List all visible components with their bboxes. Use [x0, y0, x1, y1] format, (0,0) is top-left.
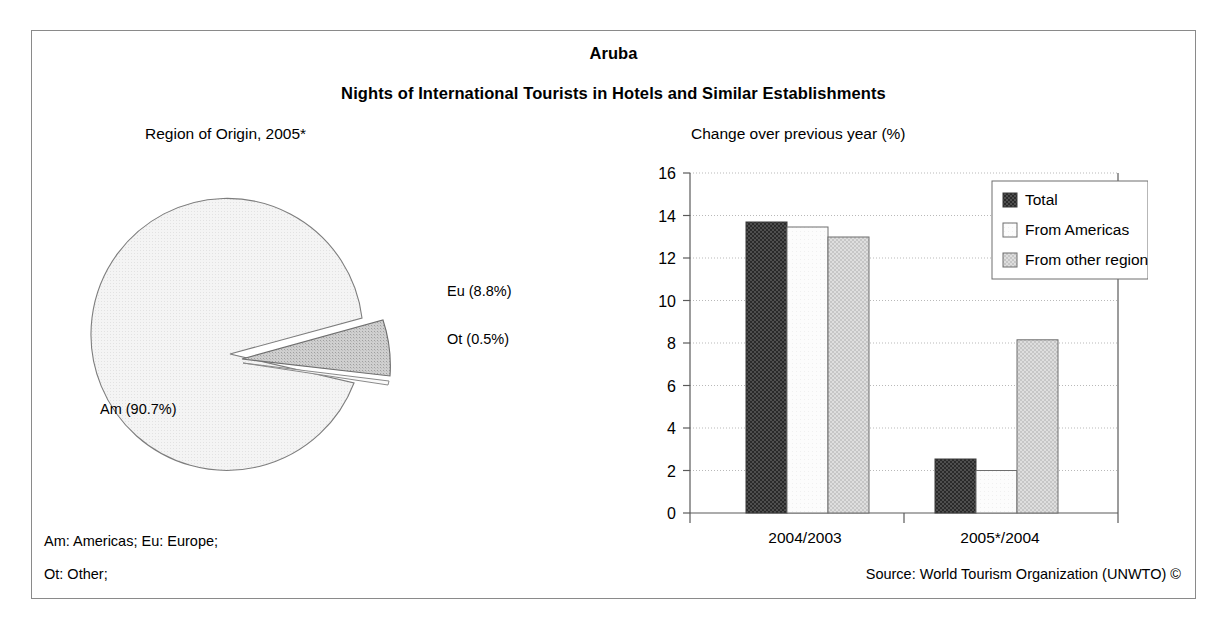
pie-slice-am — [91, 198, 362, 470]
y-tick-label: 4 — [667, 420, 676, 437]
pie-label-ot: Ot (0.5%) — [447, 331, 509, 347]
y-tick-labels: 16 14 12 10 8 6 4 2 0 — [658, 165, 676, 522]
bar-chart: 16 14 12 10 8 6 4 2 0 — [628, 159, 1148, 559]
chart-figure-frame: Aruba Nights of International Tourists i… — [31, 30, 1196, 599]
legend-label-from-americas: From Americas — [1025, 221, 1129, 238]
bar-americas-g2 — [976, 471, 1017, 514]
x-tick-marks — [690, 513, 1118, 523]
y-tick-label: 0 — [667, 505, 676, 522]
legend-label-from-other-regions: From other regions — [1025, 251, 1148, 268]
x-category-label: 2004/2003 — [768, 529, 841, 546]
source-attribution: Source: World Tourism Organization (UNWT… — [866, 566, 1181, 582]
pie-label-eu: Eu (8.8%) — [447, 283, 511, 299]
bar-group-1 — [746, 222, 869, 513]
bar-panel-caption: Change over previous year (%) — [691, 125, 906, 143]
bar-total-g1 — [746, 222, 787, 513]
bar-total-g2 — [935, 459, 976, 513]
bar-americas-g1 — [787, 227, 828, 513]
bar-other-g1 — [828, 237, 869, 513]
y-tick-label: 6 — [667, 378, 676, 395]
x-tick-labels: 2004/2003 2005*/2004 — [768, 529, 1040, 546]
bar-chart-legend: Total From Americas From other regions — [992, 181, 1148, 279]
y-tick-label: 16 — [658, 165, 676, 182]
legend-label-total: Total — [1025, 191, 1058, 208]
legend-swatch-from-americas — [1003, 223, 1017, 237]
figure-subtitle: Nights of International Tourists in Hote… — [32, 84, 1195, 103]
bar-other-g2 — [1017, 340, 1058, 513]
y-tick-label: 8 — [667, 335, 676, 352]
pie-chart-svg — [32, 151, 592, 501]
y-tick-label: 2 — [667, 463, 676, 480]
pie-panel-caption: Region of Origin, 2005* — [145, 125, 306, 143]
x-category-label: 2005*/2004 — [960, 529, 1040, 546]
footnote-abbreviations-line-2: Ot: Other; — [44, 566, 108, 582]
legend-swatch-total — [1003, 193, 1017, 207]
y-tick-label: 10 — [658, 293, 676, 310]
figure-title: Aruba — [32, 44, 1195, 63]
footnote-abbreviations-line-1: Am: Americas; Eu: Europe; — [44, 533, 218, 549]
y-tick-label: 12 — [658, 250, 676, 267]
y-tick-marks — [683, 173, 690, 513]
pie-label-am: Am (90.7%) — [100, 401, 177, 417]
pie-chart: Eu (8.8%) Ot (0.5%) Am (90.7%) — [32, 151, 592, 501]
y-tick-label: 14 — [658, 208, 676, 225]
bar-chart-svg: 16 14 12 10 8 6 4 2 0 — [628, 159, 1148, 559]
legend-swatch-from-other-regions — [1003, 253, 1017, 267]
